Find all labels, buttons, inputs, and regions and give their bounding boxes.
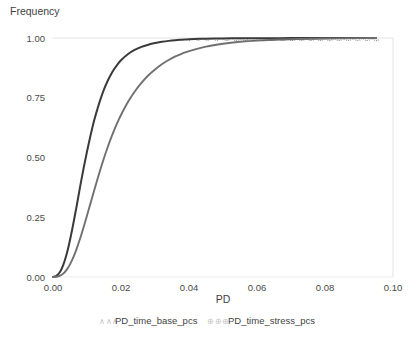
series-line-base	[53, 38, 376, 277]
x-tick-label: 0.00	[44, 282, 63, 293]
y-tick-label: 0.25	[27, 212, 46, 223]
legend-label-stress[interactable]: PD_time_stress_pcs	[228, 315, 315, 326]
x-tick-label: 0.08	[316, 282, 335, 293]
data-series-group	[53, 38, 379, 277]
y-axis-ticks: 0.000.250.500.751.00	[27, 33, 46, 283]
chart-container: Frequency 0.000.250.500.751.00 0.000.020…	[0, 0, 417, 338]
cdf-plot: Frequency 0.000.250.500.751.00 0.000.020…	[0, 0, 417, 338]
legend-marker-icon-stress: ⊕⊕⊕	[207, 317, 230, 326]
x-tick-label: 0.10	[384, 282, 403, 293]
x-tick-label: 0.04	[180, 282, 199, 293]
y-tick-label: 0.50	[27, 152, 46, 163]
x-tick-label: 0.02	[112, 282, 131, 293]
y-axis-title: Frequency	[10, 5, 60, 17]
y-tick-label: 0.00	[27, 272, 46, 283]
chart-legend: ∧∧∧PD_time_base_pcs⊕⊕⊕PD_time_stress_pcs	[99, 315, 315, 326]
series-line-stress	[53, 38, 376, 277]
x-axis-title: PD	[216, 293, 231, 305]
y-tick-label: 1.00	[27, 33, 46, 44]
legend-label-base[interactable]: PD_time_base_pcs	[115, 315, 198, 326]
x-axis-ticks: 0.000.020.040.060.080.10	[44, 282, 403, 293]
x-tick-label: 0.06	[248, 282, 267, 293]
y-tick-label: 0.75	[27, 92, 46, 103]
